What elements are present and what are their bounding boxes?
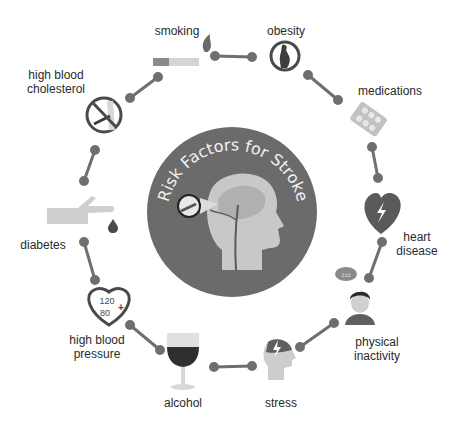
hand-blood-drop-icon xyxy=(47,196,118,233)
label-diabetes: diabetes xyxy=(18,238,68,252)
label-stress: stress xyxy=(256,396,306,410)
svg-text:120: 120 xyxy=(99,296,114,306)
clogged-artery-icon xyxy=(87,98,121,132)
obesity-icon xyxy=(271,42,299,70)
label-medications: medications xyxy=(350,84,430,98)
label-heart-disease: heart disease xyxy=(392,230,442,258)
cigarette-icon xyxy=(153,34,211,66)
svg-text:80: 80 xyxy=(100,308,110,318)
heart-lightning-icon xyxy=(365,193,401,234)
svg-text:zzz: zzz xyxy=(341,271,350,278)
label-high-blood-pressure: high blood pressure xyxy=(62,333,132,361)
label-high-blood-cholesterol: high blood cholesterol xyxy=(24,68,88,96)
label-alcohol: alcohol xyxy=(158,396,208,410)
head-lightning-icon xyxy=(264,339,297,380)
label-smoking: smoking xyxy=(146,24,208,38)
svg-text:+: + xyxy=(118,302,124,313)
label-physical-inactivity: physical inactivity xyxy=(342,335,412,363)
heart-blood-pressure-icon: 120 80 + xyxy=(89,289,129,325)
wine-glass-icon xyxy=(167,333,199,390)
center-circle: Risk Factors for Stroke xyxy=(147,127,317,297)
label-obesity: obesity xyxy=(262,24,310,38)
pills-icon xyxy=(349,101,388,137)
